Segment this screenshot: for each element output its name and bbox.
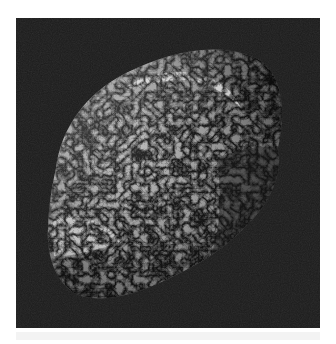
moon-photograph — [16, 18, 320, 328]
hyperion-moon-illustration — [16, 18, 320, 328]
caption-strip — [16, 332, 320, 340]
